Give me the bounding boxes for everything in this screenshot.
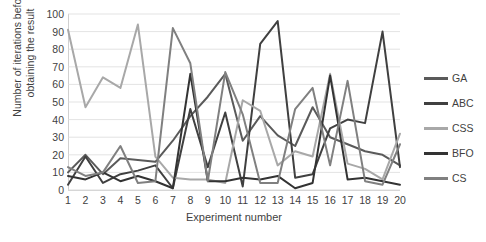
legend-label: BFO xyxy=(452,147,474,159)
legend-swatch-css xyxy=(424,127,448,130)
line-chart: Number of iterations before obtaining th… xyxy=(0,0,486,242)
x-axis-tick-label: 3 xyxy=(100,193,106,207)
y-axis-tick-labels: 0102030405060708090100 xyxy=(34,8,64,196)
y-axis-tick-label: 70 xyxy=(52,61,64,72)
legend-swatch-abc xyxy=(424,102,448,105)
chart-legend: GAABCCSSBFOCS xyxy=(424,72,484,180)
y-axis-tick-label: 80 xyxy=(52,44,64,55)
y-axis-tick-label: 20 xyxy=(52,149,64,160)
y-axis-tick-label: 30 xyxy=(52,132,64,143)
plot-area xyxy=(68,14,400,190)
legend-label: CS xyxy=(452,172,467,184)
x-axis-tick-label: 14 xyxy=(289,193,301,207)
y-axis-tick-label: 90 xyxy=(52,26,64,37)
x-axis-tick-label: 17 xyxy=(342,193,354,207)
x-axis-tick-label: 2 xyxy=(83,193,89,207)
legend-item-abc[interactable]: ABC xyxy=(424,97,474,109)
x-axis-tick-label: 4 xyxy=(117,193,123,207)
x-axis-tick-label: 6 xyxy=(152,193,158,207)
x-axis-tick-label: 20 xyxy=(394,193,406,207)
legend-swatch-bfo xyxy=(424,152,448,155)
x-axis-tick-label: 16 xyxy=(324,193,336,207)
y-axis-title-line-1: Number of iterations before xyxy=(11,0,24,117)
legend-swatch-cs xyxy=(424,177,448,180)
x-axis-tick-label: 13 xyxy=(272,193,284,207)
x-axis-tick-label: 19 xyxy=(377,193,389,207)
legend-label: ABC xyxy=(452,97,474,109)
legend-item-ga[interactable]: GA xyxy=(424,72,467,84)
y-axis-tick-label: 60 xyxy=(52,79,64,90)
y-axis-tick-label: 10 xyxy=(52,167,64,178)
series-lines xyxy=(68,14,400,190)
series-line-ga xyxy=(68,74,400,174)
x-axis-tick-label: 11 xyxy=(237,193,248,207)
legend-label: GA xyxy=(452,72,467,84)
legend-item-bfo[interactable]: BFO xyxy=(424,147,474,159)
y-axis-tick-label: 40 xyxy=(52,114,64,125)
y-axis-tick-label: 0 xyxy=(58,185,64,196)
y-axis-tick-label: 50 xyxy=(52,97,64,108)
x-axis-tick-label: 18 xyxy=(359,193,371,207)
x-axis-tick-label: 7 xyxy=(170,193,176,207)
x-axis-tick-label: 9 xyxy=(205,193,211,207)
x-axis-tick-label: 1 xyxy=(65,193,71,207)
x-axis-tick-labels: 1234567891011121314151617181920 xyxy=(68,193,400,209)
legend-item-cs[interactable]: CS xyxy=(424,172,467,184)
x-axis-title: Experiment number xyxy=(68,210,400,224)
y-axis-tick-label: 100 xyxy=(46,9,64,20)
legend-item-css[interactable]: CSS xyxy=(424,122,474,134)
x-axis-tick-label: 15 xyxy=(307,193,319,207)
legend-swatch-ga xyxy=(424,77,448,80)
x-axis-tick-label: 10 xyxy=(219,193,231,207)
x-axis-tick-label: 5 xyxy=(135,193,141,207)
x-axis-tick-label: 8 xyxy=(187,193,193,207)
x-axis-tick-label: 12 xyxy=(254,193,266,207)
legend-label: CSS xyxy=(452,122,474,134)
